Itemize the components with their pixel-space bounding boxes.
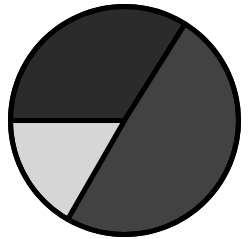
pie-chart xyxy=(0,0,249,239)
